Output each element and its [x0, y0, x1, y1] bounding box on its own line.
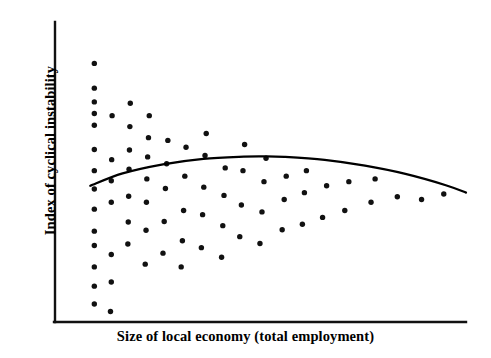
data-point [419, 197, 424, 202]
data-point [92, 123, 97, 128]
data-point [259, 209, 264, 214]
data-point [92, 228, 97, 233]
data-point [201, 184, 206, 189]
data-point [304, 168, 309, 173]
data-point [143, 261, 148, 266]
data-point [92, 111, 97, 116]
data-point [126, 219, 131, 224]
data-point [160, 250, 165, 255]
data-point [342, 208, 347, 213]
data-point [441, 191, 446, 196]
data-point [147, 113, 152, 118]
data-point-group [92, 61, 447, 314]
data-point [109, 157, 114, 162]
data-point [126, 194, 131, 199]
data-point [372, 176, 377, 181]
data-point [109, 252, 114, 257]
data-point [279, 227, 284, 232]
data-point [221, 193, 226, 198]
data-point [183, 145, 188, 150]
data-point [92, 206, 97, 211]
data-point [239, 202, 244, 207]
data-point [109, 279, 114, 284]
y-axis-label: Index of cyclical instability [42, 3, 59, 299]
data-point [163, 186, 168, 191]
data-point [92, 186, 97, 191]
data-point [143, 228, 148, 233]
data-point [302, 190, 307, 195]
data-point [237, 234, 242, 239]
data-point [204, 131, 209, 136]
data-point [92, 243, 97, 248]
data-point [92, 61, 97, 66]
data-point [300, 222, 305, 227]
data-point [92, 264, 97, 269]
fit-curve [90, 156, 466, 192]
data-point [223, 165, 228, 170]
data-point [125, 241, 130, 246]
data-point [128, 101, 133, 106]
data-point [127, 147, 132, 152]
data-point [92, 168, 97, 173]
data-point [368, 200, 373, 205]
axis-lines [54, 22, 466, 322]
data-point [162, 219, 167, 224]
data-point [200, 212, 205, 217]
data-point [144, 176, 149, 181]
data-point [165, 138, 170, 143]
data-point [146, 135, 151, 140]
data-point [108, 309, 113, 314]
data-point [145, 154, 150, 159]
data-point [282, 197, 287, 202]
data-point [242, 142, 247, 147]
x-axis-label: Size of local economy (total employment) [0, 328, 491, 345]
data-point [109, 200, 114, 205]
data-point [92, 99, 97, 104]
data-point [284, 173, 289, 178]
data-point [92, 147, 97, 152]
data-point [202, 153, 207, 158]
data-point [109, 113, 114, 118]
data-point [240, 168, 245, 173]
data-point [178, 264, 183, 269]
data-point [261, 179, 266, 184]
data-point [181, 208, 186, 213]
data-point [127, 124, 132, 129]
data-point [92, 283, 97, 288]
data-point [182, 173, 187, 178]
data-point [346, 179, 351, 184]
data-point [220, 223, 225, 228]
data-point [92, 85, 97, 90]
data-point [324, 183, 329, 188]
data-point [257, 241, 262, 246]
plot-canvas [0, 0, 491, 358]
scatter-plot-figure: Size of local economy (total employment)… [0, 0, 491, 358]
data-point [395, 194, 400, 199]
data-point [92, 301, 97, 306]
data-point [320, 215, 325, 220]
data-point [219, 255, 224, 260]
data-point [144, 200, 149, 205]
data-point [180, 238, 185, 243]
data-point [199, 245, 204, 250]
